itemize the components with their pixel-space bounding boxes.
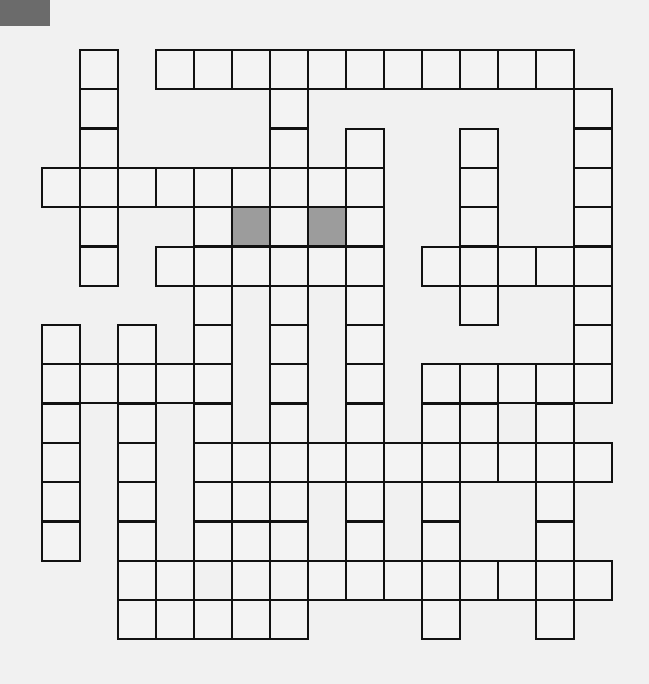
crossword-cell[interactable] bbox=[535, 560, 575, 601]
crossword-cell[interactable] bbox=[345, 560, 385, 601]
crossword-cell[interactable] bbox=[41, 324, 81, 365]
crossword-cell[interactable] bbox=[345, 442, 385, 483]
crossword-cell[interactable] bbox=[41, 403, 81, 444]
crossword-cell[interactable] bbox=[269, 481, 309, 522]
crossword-cell[interactable] bbox=[79, 206, 119, 247]
crossword-cell[interactable] bbox=[459, 167, 499, 208]
crossword-cell[interactable] bbox=[41, 481, 81, 522]
crossword-cell[interactable] bbox=[459, 560, 499, 601]
crossword-cell[interactable] bbox=[41, 521, 81, 562]
crossword-cell[interactable] bbox=[383, 442, 423, 483]
crossword-cell[interactable] bbox=[573, 167, 613, 208]
crossword-cell[interactable] bbox=[79, 128, 119, 169]
crossword-cell[interactable] bbox=[535, 246, 575, 287]
crossword-cell[interactable] bbox=[535, 481, 575, 522]
crossword-cell[interactable] bbox=[231, 560, 271, 601]
crossword-cell[interactable] bbox=[307, 49, 347, 90]
crossword-cell[interactable] bbox=[345, 128, 385, 169]
crossword-cell[interactable] bbox=[193, 481, 233, 522]
crossword-cell[interactable] bbox=[535, 403, 575, 444]
crossword-cell[interactable] bbox=[535, 363, 575, 404]
crossword-cell[interactable] bbox=[459, 363, 499, 404]
crossword-cell[interactable] bbox=[345, 521, 385, 562]
crossword-cell[interactable] bbox=[269, 246, 309, 287]
crossword-cell[interactable] bbox=[421, 560, 461, 601]
crossword-cell[interactable] bbox=[79, 167, 119, 208]
crossword-cell[interactable] bbox=[573, 246, 613, 287]
crossword-cell[interactable] bbox=[193, 442, 233, 483]
crossword-cell[interactable] bbox=[307, 560, 347, 601]
crossword-cell[interactable] bbox=[193, 324, 233, 365]
crossword-cell[interactable] bbox=[535, 49, 575, 90]
crossword-cell[interactable] bbox=[193, 521, 233, 562]
crossword-cell[interactable] bbox=[573, 560, 613, 601]
crossword-cell[interactable] bbox=[573, 285, 613, 326]
crossword-cell[interactable] bbox=[79, 88, 119, 129]
crossword-cell[interactable] bbox=[155, 560, 195, 601]
crossword-cell[interactable] bbox=[269, 128, 309, 169]
crossword-cell[interactable] bbox=[117, 599, 157, 640]
crossword-cell[interactable] bbox=[269, 442, 309, 483]
crossword-cell[interactable] bbox=[573, 88, 613, 129]
crossword-cell[interactable] bbox=[79, 49, 119, 90]
crossword-cell[interactable] bbox=[117, 167, 157, 208]
crossword-cell[interactable] bbox=[497, 363, 537, 404]
crossword-cell[interactable] bbox=[497, 49, 537, 90]
crossword-cell[interactable] bbox=[269, 599, 309, 640]
crossword-cell[interactable] bbox=[193, 363, 233, 404]
crossword-cell[interactable] bbox=[459, 128, 499, 169]
crossword-cell[interactable] bbox=[269, 521, 309, 562]
crossword-cell[interactable] bbox=[345, 324, 385, 365]
crossword-cell[interactable] bbox=[117, 560, 157, 601]
crossword-cell[interactable] bbox=[269, 206, 309, 247]
crossword-cell[interactable] bbox=[459, 403, 499, 444]
crossword-cell[interactable] bbox=[573, 324, 613, 365]
crossword-cell[interactable] bbox=[345, 49, 385, 90]
crossword-cell[interactable] bbox=[269, 49, 309, 90]
crossword-cell[interactable] bbox=[269, 324, 309, 365]
shaded-cell[interactable] bbox=[231, 206, 271, 247]
crossword-cell[interactable] bbox=[155, 49, 195, 90]
crossword-cell[interactable] bbox=[421, 442, 461, 483]
crossword-cell[interactable] bbox=[497, 560, 537, 601]
crossword-cell[interactable] bbox=[231, 599, 271, 640]
crossword-cell[interactable] bbox=[497, 442, 537, 483]
crossword-cell[interactable] bbox=[459, 285, 499, 326]
crossword-cell[interactable] bbox=[41, 442, 81, 483]
crossword-cell[interactable] bbox=[421, 403, 461, 444]
crossword-cell[interactable] bbox=[345, 403, 385, 444]
crossword-cell[interactable] bbox=[79, 363, 119, 404]
crossword-cell[interactable] bbox=[269, 560, 309, 601]
crossword-cell[interactable] bbox=[117, 481, 157, 522]
crossword-cell[interactable] bbox=[155, 167, 195, 208]
crossword-cell[interactable] bbox=[231, 246, 271, 287]
crossword-cell[interactable] bbox=[269, 88, 309, 129]
crossword-cell[interactable] bbox=[193, 403, 233, 444]
crossword-cell[interactable] bbox=[421, 246, 461, 287]
crossword-cell[interactable] bbox=[231, 521, 271, 562]
crossword-cell[interactable] bbox=[269, 363, 309, 404]
crossword-cell[interactable] bbox=[421, 481, 461, 522]
crossword-cell[interactable] bbox=[193, 285, 233, 326]
crossword-cell[interactable] bbox=[383, 560, 423, 601]
crossword-cell[interactable] bbox=[117, 324, 157, 365]
crossword-cell[interactable] bbox=[79, 246, 119, 287]
crossword-cell[interactable] bbox=[459, 49, 499, 90]
crossword-cell[interactable] bbox=[459, 246, 499, 287]
crossword-cell[interactable] bbox=[155, 599, 195, 640]
crossword-cell[interactable] bbox=[573, 363, 613, 404]
crossword-cell[interactable] bbox=[117, 403, 157, 444]
crossword-cell[interactable] bbox=[535, 442, 575, 483]
crossword-cell[interactable] bbox=[459, 442, 499, 483]
crossword-cell[interactable] bbox=[193, 206, 233, 247]
crossword-cell[interactable] bbox=[155, 246, 195, 287]
crossword-cell[interactable] bbox=[231, 167, 271, 208]
crossword-cell[interactable] bbox=[307, 167, 347, 208]
crossword-cell[interactable] bbox=[345, 246, 385, 287]
crossword-cell[interactable] bbox=[383, 49, 423, 90]
crossword-cell[interactable] bbox=[269, 167, 309, 208]
crossword-cell[interactable] bbox=[307, 246, 347, 287]
crossword-cell[interactable] bbox=[117, 442, 157, 483]
crossword-cell[interactable] bbox=[345, 285, 385, 326]
shaded-cell[interactable] bbox=[307, 206, 347, 247]
